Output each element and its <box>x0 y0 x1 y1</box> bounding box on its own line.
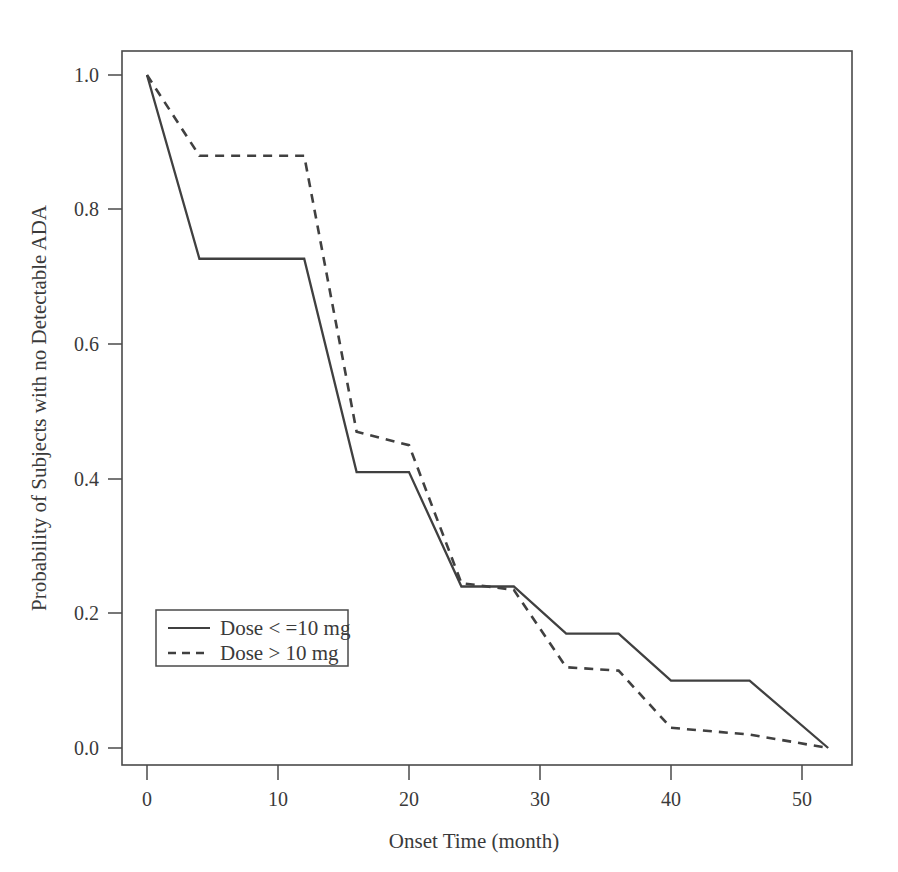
x-tick-label-40: 40 <box>661 788 681 810</box>
kaplan-meier-figure: 1.0 0.8 0.6 0.4 0.2 0.0 0 10 20 30 40 50… <box>0 0 898 872</box>
x-tick-label-10: 10 <box>268 788 288 810</box>
legend-label-dose-lte-10mg: Dose < =10 mg <box>220 616 351 640</box>
legend: Dose < =10 mg Dose > 10 mg <box>156 610 351 666</box>
x-tick-label-50: 50 <box>792 788 812 810</box>
y-tick-label-3: 0.6 <box>74 333 99 355</box>
y-tick-label-4: 0.4 <box>74 468 99 490</box>
x-axis-title: Onset Time (month) <box>389 829 559 853</box>
y-tick-label-5: 0.2 <box>74 602 99 624</box>
y-tick-label-6: 0.0 <box>74 737 99 759</box>
x-tick-label-30: 30 <box>530 788 550 810</box>
x-tick-label-20: 20 <box>399 788 419 810</box>
chart-svg: 1.0 0.8 0.6 0.4 0.2 0.0 0 10 20 30 40 50… <box>0 0 898 872</box>
x-tick-label-0: 0 <box>142 788 152 810</box>
y-tick-label-2: 0.8 <box>74 198 99 220</box>
y-axis-title: Probability of Subjects with no Detectab… <box>27 204 51 611</box>
y-tick-label-1: 1.0 <box>74 64 99 86</box>
legend-label-dose-gt-10mg: Dose > 10 mg <box>220 641 339 665</box>
